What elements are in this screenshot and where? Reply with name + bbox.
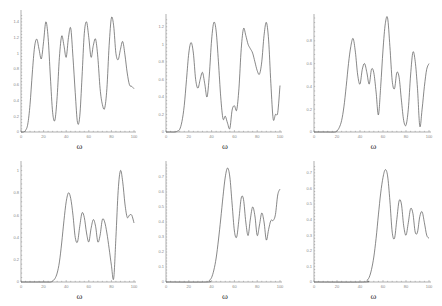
- y-tick-label: 0.8: [13, 190, 19, 195]
- x-tick-label: 40: [209, 284, 214, 289]
- x-tick-label: 60: [87, 284, 92, 289]
- y-tick-label: 0.6: [158, 77, 164, 82]
- x-tick-label: 60: [232, 284, 237, 289]
- data-series-line: [314, 170, 429, 282]
- x-tick-label: 80: [255, 284, 260, 289]
- x-tick-label: 100: [277, 284, 284, 289]
- y-tick-label: 0.5: [158, 204, 164, 209]
- line-chart: 02040608010000.20.40.60.811.21.4ω: [0, 0, 147, 153]
- y-tick-label: 0.2: [13, 114, 19, 119]
- y-tick-label: 1: [17, 168, 20, 173]
- x-tick-label: 20: [187, 134, 192, 139]
- x-tick-label: 60: [381, 134, 386, 139]
- y-tick-label: 0.3: [306, 233, 312, 238]
- x-tick-label: 40: [358, 284, 363, 289]
- x-axis-title: ω: [77, 141, 83, 151]
- x-tick-label: 60: [381, 284, 386, 289]
- x-tick-label: 40: [64, 134, 69, 139]
- x-tick-label: 100: [426, 134, 433, 139]
- x-tick-label: 0: [165, 134, 168, 139]
- chart-panel-top-left: 02040608010000.20.40.60.811.21.4ω ω: [0, 0, 147, 153]
- y-tick-label: 0.8: [158, 59, 164, 64]
- x-tick-label: 0: [20, 134, 23, 139]
- y-tick-label: 1: [17, 51, 20, 56]
- x-axis-title: ω: [371, 291, 377, 301]
- y-tick-label: 0.6: [306, 186, 312, 191]
- data-series-line: [21, 170, 134, 282]
- x-tick-label: 40: [209, 134, 214, 139]
- data-series-line: [166, 22, 280, 132]
- axis-lines: [314, 14, 431, 132]
- y-tick-label: 0.2: [306, 248, 312, 253]
- y-tick-label: 0.1: [158, 264, 164, 269]
- y-tick-label: 0.4: [13, 98, 19, 103]
- x-axis-title: ω: [222, 291, 228, 301]
- y-tick-label: 0.6: [306, 61, 312, 66]
- y-tick-label: 0.4: [306, 84, 312, 89]
- chart-panel-top-right: 02040608010000.20.40.60.8ω ω: [292, 0, 439, 153]
- axis-lines: [21, 10, 136, 132]
- x-tick-label: 20: [41, 134, 46, 139]
- y-tick-label: 0.5: [306, 201, 312, 206]
- x-tick-label: 0: [313, 134, 316, 139]
- x-tick-label: 80: [404, 134, 409, 139]
- line-chart: 02040608010000.20.40.60.8ω: [292, 0, 442, 153]
- x-tick-label: 100: [277, 134, 284, 139]
- x-tick-label: 40: [64, 284, 69, 289]
- y-tick-label: 0.4: [306, 217, 312, 222]
- axis-lines: [166, 161, 282, 282]
- y-tick-label: 0.4: [158, 219, 164, 224]
- x-tick-label: 40: [358, 134, 363, 139]
- y-tick-label: 0.7: [306, 170, 312, 175]
- x-tick-label: 20: [41, 284, 46, 289]
- x-tick-label: 20: [187, 284, 192, 289]
- y-tick-label: 0.8: [306, 38, 312, 43]
- x-tick-label: 80: [109, 134, 114, 139]
- x-tick-label: 20: [335, 134, 340, 139]
- x-axis-title: ω: [77, 291, 83, 301]
- x-tick-label: 60: [232, 134, 237, 139]
- y-tick-label: 0.2: [158, 112, 164, 117]
- y-tick-label: 0.6: [158, 189, 164, 194]
- line-chart: 02040608010000.10.20.30.40.50.60.7ω: [145, 153, 292, 306]
- y-tick-label: 1: [162, 42, 165, 47]
- y-tick-label: 1.2: [158, 24, 164, 29]
- y-tick-label: 0.4: [158, 94, 164, 99]
- x-tick-label: 100: [131, 134, 138, 139]
- y-tick-label: 0.2: [13, 257, 19, 262]
- y-tick-label: 0.3: [158, 234, 164, 239]
- y-tick-label: 0.2: [306, 107, 312, 112]
- y-tick-label: 0.7: [158, 174, 164, 179]
- x-tick-label: 100: [426, 284, 433, 289]
- chart-panel-bottom-left: 02040608010000.20.40.60.81ω ω: [0, 153, 147, 306]
- x-axis-title: ω: [222, 141, 228, 151]
- data-series-line: [314, 17, 429, 133]
- chart-panel-top-middle: 02040608010000.20.40.60.811.2ω ω: [145, 0, 292, 153]
- y-tick-label: 0.4: [13, 235, 19, 240]
- x-tick-label: 80: [255, 134, 260, 139]
- x-axis-title: ω: [371, 141, 377, 151]
- line-chart: 02040608010000.20.40.60.811.2ω: [145, 0, 292, 153]
- x-tick-label: 80: [109, 284, 114, 289]
- y-tick-label: 0.8: [13, 66, 19, 71]
- y-tick-label: 0.2: [158, 249, 164, 254]
- y-tick-label: 1.2: [13, 35, 19, 40]
- chart-panel-bottom-right: 02040608010000.10.20.30.40.50.60.7ω ω: [292, 153, 439, 306]
- data-series-line: [166, 168, 280, 282]
- x-tick-label: 20: [335, 284, 340, 289]
- x-tick-label: 80: [404, 284, 409, 289]
- data-series-line: [21, 17, 134, 132]
- y-tick-label: 0.6: [13, 213, 19, 218]
- x-tick-label: 100: [131, 284, 138, 289]
- x-tick-label: 0: [313, 284, 316, 289]
- x-tick-label: 60: [87, 134, 92, 139]
- y-tick-label: 0.1: [306, 264, 312, 269]
- line-chart: 02040608010000.20.40.60.81ω: [0, 153, 147, 306]
- line-chart: 02040608010000.10.20.30.40.50.60.7ω: [292, 153, 442, 306]
- x-tick-label: 0: [20, 284, 23, 289]
- y-tick-label: 1.4: [13, 19, 19, 24]
- y-tick-label: 0.6: [13, 82, 19, 87]
- x-tick-label: 0: [165, 284, 168, 289]
- chart-panel-bottom-middle: 02040608010000.10.20.30.40.50.60.7ω ω: [145, 153, 292, 306]
